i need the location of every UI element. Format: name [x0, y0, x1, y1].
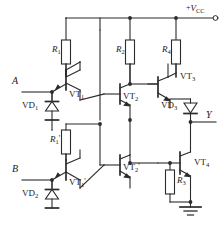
junction-output-Y: [189, 120, 193, 124]
vt4-collector-slant: [180, 152, 191, 156]
diode-VD1-body: [46, 102, 59, 112]
vt1-collector-slant: [66, 70, 80, 77]
resistor-R1: [62, 40, 71, 64]
label-R1-prime: R1': [50, 135, 60, 144]
label-R1: R1: [52, 45, 61, 54]
diode-VD3-body: [184, 103, 197, 113]
vcc-terminal-node: [213, 16, 218, 21]
resistor-R2: [126, 40, 135, 64]
label-vcc: +VCC: [186, 4, 205, 13]
label-R4: R4: [162, 45, 171, 54]
junction-bus-r1p: [98, 122, 102, 126]
label-VT1: VT1: [69, 90, 84, 99]
label-VT1-prime: VT1': [69, 178, 86, 187]
vt3-collector-slant: [158, 77, 168, 81]
label-input-B: B: [12, 164, 18, 174]
vt1p-collector-slant: [66, 158, 80, 164]
vt1-emitter-arrow: [55, 84, 61, 90]
label-VT2-prime: VT2': [123, 163, 140, 172]
vt2p-collector-slant: [120, 155, 130, 159]
label-R3: R3: [177, 176, 186, 185]
label-R2: R2: [116, 45, 125, 54]
label-VD1: VD1: [22, 101, 38, 110]
label-VT3: VT3: [180, 72, 195, 81]
label-VT2: VT2: [123, 92, 138, 101]
junction-rail-r4: [174, 16, 178, 20]
vt1p-emitter-arrow: [55, 172, 61, 178]
vt3-collector-join: [168, 73, 176, 77]
diode-VD2-body: [46, 190, 59, 200]
junction-rail-r2: [128, 16, 132, 20]
resistor-R1p: [62, 130, 71, 154]
label-VT4: VT4: [194, 158, 209, 167]
resistor-R4: [172, 40, 181, 64]
resistor-R3: [166, 170, 175, 194]
junction-vt2-emitter-vt2p-collector: [128, 118, 132, 122]
label-input-A: A: [12, 76, 18, 86]
label-VD3: VD3: [161, 101, 177, 110]
label-VD2: VD2: [22, 189, 38, 198]
label-output-Y: Y: [206, 110, 212, 120]
